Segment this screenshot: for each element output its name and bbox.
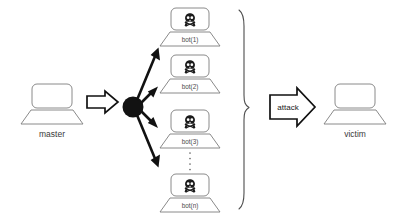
skull-crossbones-icon [185, 60, 195, 73]
bot-node-2: bot(2) [160, 55, 220, 93]
victim-laptop-base [324, 110, 386, 124]
attack-arrow-label: attack [277, 103, 299, 112]
command-arrow [87, 91, 118, 113]
arrow-to-bot-2 [141, 87, 158, 104]
vertical-ellipsis-icon [189, 152, 191, 170]
arrow-to-bot-3 [141, 111, 158, 128]
hub-node [123, 97, 144, 118]
laptop-icon [21, 84, 83, 124]
master-node: master [21, 84, 83, 139]
bot-1-label: bot(1) [182, 36, 199, 44]
master-laptop-screen [32, 84, 72, 108]
hub-node-icon [123, 97, 144, 118]
skull-crossbones-icon [185, 13, 195, 26]
bot-node-1: bot(1) [160, 8, 220, 46]
bot-node-3: bot(3) [160, 110, 220, 148]
block-arrow-right-icon [87, 91, 118, 113]
master-label: master [39, 129, 65, 139]
skull-crossbones-icon [185, 115, 195, 128]
bot-node-n: bot(n) [160, 174, 220, 212]
victim-laptop-screen [335, 84, 375, 108]
bot-3-label: bot(3) [182, 138, 199, 146]
victim-node: victim [324, 84, 386, 139]
attack-arrow: attack [270, 88, 315, 126]
victim-label: victim [344, 129, 366, 139]
diagram-canvas: master [0, 0, 401, 219]
laptop-icon [324, 84, 386, 124]
curly-brace-right-icon [239, 10, 249, 209]
bot-2-label: bot(2) [182, 83, 199, 91]
master-laptop-base [21, 110, 83, 124]
botnet-attack-diagram: master [0, 0, 401, 219]
skull-crossbones-icon [185, 179, 195, 192]
bot-n-label: bot(n) [182, 202, 199, 210]
